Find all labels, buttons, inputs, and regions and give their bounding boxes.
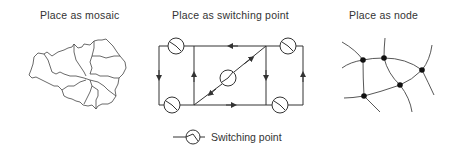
node-dot [361,93,367,99]
switching-point-icon [164,97,180,113]
node-dot [360,57,366,63]
switching-network [159,38,303,113]
switching-point-icon [272,97,288,113]
legend-switching-point-icon [173,130,205,144]
node-dot [381,55,387,61]
legend-label: Switching point [211,131,282,143]
switching-point-icon [280,38,296,54]
node-network [342,38,434,112]
node-dot [419,67,425,73]
mosaic-map [29,39,126,109]
switching-point-icon [168,38,184,54]
switching-point-icon [220,70,236,86]
node-dot [397,82,403,88]
